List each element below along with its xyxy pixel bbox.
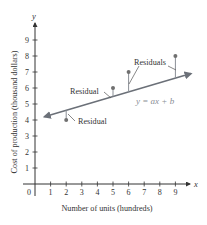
leader-residuals-a (129, 66, 139, 84)
y-tick-label: 7 (25, 68, 29, 77)
x-tick-label: 3 (80, 188, 84, 197)
y-tick-label: 9 (25, 36, 29, 45)
x-tick-label: 6 (127, 188, 131, 197)
data-point (64, 118, 68, 122)
annotation-residuals: Residuals (134, 58, 166, 67)
x-tick-label: 7 (142, 188, 146, 197)
y-axis-title: Cost of production (thousand dollars) (10, 50, 19, 173)
y-tick-label: 2 (25, 148, 29, 157)
x-axis-letter: x (193, 179, 198, 189)
origin-label: 0 (27, 188, 31, 197)
annotation-residual-low: Residual (78, 117, 107, 126)
data-point (111, 86, 115, 90)
y-tick-label: 4 (25, 116, 29, 125)
chart: x y 0 123456789 123456789 Number of unit… (0, 0, 207, 225)
data-point (173, 54, 177, 58)
y-tick-label: 1 (25, 164, 29, 173)
annotation-residual-mid: Residual (70, 87, 99, 96)
y-tick-label: 6 (25, 84, 29, 93)
x-tick-label: 2 (64, 188, 68, 197)
y-tick-label: 8 (25, 52, 29, 61)
x-tick-label: 5 (111, 188, 115, 197)
y-axis-ticks: 123456789 (25, 36, 38, 173)
y-tick-label: 3 (25, 132, 29, 141)
x-tick-label: 1 (49, 188, 53, 197)
y-axis-letter: y (31, 11, 36, 21)
x-tick-label: 4 (95, 188, 99, 197)
data-point (127, 70, 131, 74)
x-axis-title: Number of units (hundreds) (61, 204, 152, 213)
leader-residuals-b (168, 66, 176, 70)
leader-residual-mid (104, 92, 111, 98)
regression-equation-label: y = ax + b (135, 96, 175, 106)
y-tick-label: 5 (25, 100, 29, 109)
x-tick-label: 8 (158, 188, 162, 197)
leader-residual-low (68, 114, 75, 121)
x-tick-label: 9 (173, 188, 177, 197)
